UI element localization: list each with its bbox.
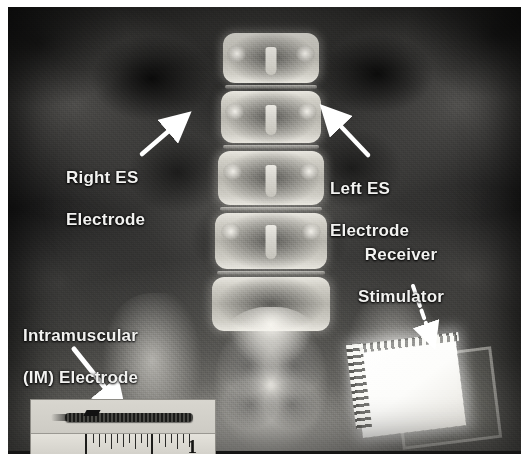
label-left-es-line1: Left ES: [330, 178, 409, 199]
ruler-number-label: 1: [188, 436, 198, 454]
ruler-minor-tick: [99, 434, 100, 447]
ruler-minor-tick: [183, 434, 184, 443]
ruler-minor-tick: [111, 434, 112, 449]
ruler-major-tick-0: [85, 434, 87, 454]
xray-plate: Right ES Electrode Left ES Electrode Rec…: [8, 7, 521, 454]
ruler-minor-tick: [171, 434, 172, 443]
right-es-electrode-arrow: [138, 112, 198, 160]
label-intramuscular-electrode: Intramuscular (IM) Electrode: [23, 304, 138, 409]
label-right-es-line2: Electrode: [66, 209, 145, 230]
label-right-es-electrode: Right ES Electrode: [66, 146, 145, 251]
ruler-minor-tick: [123, 434, 124, 447]
label-im-line2: (IM) Electrode: [23, 367, 138, 388]
ruler-minor-tick: [165, 434, 166, 447]
ruler-minor-tick: [147, 434, 148, 447]
label-right-es-line1: Right ES: [66, 167, 145, 188]
im-electrode-inset-photo: 1: [30, 399, 216, 454]
inset-ruler: 1: [31, 433, 215, 454]
ruler-minor-tick: [117, 434, 118, 443]
ruler-minor-tick: [105, 434, 106, 443]
ruler-minor-tick: [129, 434, 130, 443]
ruler-minor-tick: [159, 434, 160, 443]
label-receiver-line2: Stimulator: [358, 286, 444, 307]
label-receiver-line1: Receiver: [358, 244, 444, 265]
left-es-electrode-arrow: [316, 103, 378, 163]
radiograph-figure: Right ES Electrode Left ES Electrode Rec…: [0, 0, 529, 461]
ruler-major-tick-1: [151, 434, 153, 454]
ruler-minor-tick: [93, 434, 94, 443]
label-im-line1: Intramuscular: [23, 325, 138, 346]
ruler-minor-tick: [177, 434, 178, 449]
ruler-minor-tick: [141, 434, 142, 443]
label-receiver-stimulator: Receiver Stimulator: [358, 223, 444, 328]
ruler-minor-tick: [135, 434, 136, 449]
